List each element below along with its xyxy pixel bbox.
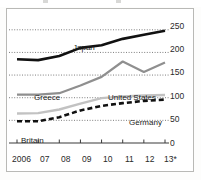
y-tick-0: 0: [170, 139, 175, 148]
series-line-greece: [17, 61, 165, 94]
chart-plot-area: [7, 9, 193, 171]
x-tick-09: 09: [82, 155, 91, 164]
series-label-germany: Germany: [129, 119, 162, 127]
artifact-nub-right: [116, 0, 121, 3]
x-tick-07: 07: [40, 155, 49, 164]
series-label-united-states: United States: [108, 94, 156, 102]
x-tick-12: 12: [145, 155, 154, 164]
y-tick-100: 100: [170, 92, 184, 101]
x-tick-10: 10: [103, 155, 112, 164]
chart-figure: Japan Greece United States Germany Brita…: [0, 0, 201, 180]
y-tick-150: 150: [170, 68, 184, 77]
x-tick-11: 11: [125, 155, 134, 164]
y-tick-50: 50: [170, 115, 179, 124]
artifact-nub-left: [43, 0, 48, 3]
y-tick-250: 250: [170, 22, 184, 31]
series-label-britain: Britain: [21, 137, 44, 145]
x-tick-08: 08: [61, 155, 70, 164]
x-tick-2006: 2006: [12, 155, 31, 164]
y-tick-200: 200: [170, 45, 184, 54]
chart-frame: Japan Greece United States Germany Brita…: [6, 8, 194, 172]
x-tick-13: 13*: [164, 155, 177, 164]
series-label-japan: Japan: [73, 44, 95, 52]
top-edge-artifact: [0, 0, 201, 7]
series-label-greece: Greece: [34, 94, 60, 102]
